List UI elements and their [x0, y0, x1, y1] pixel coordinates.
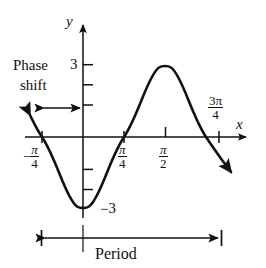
two-denominator-half: 2: [159, 157, 168, 170]
y-tick-label-minus-3: −3: [100, 201, 116, 217]
x-axis-label: x: [236, 117, 243, 132]
graph-canvas: [0, 0, 266, 268]
three-pi-numerator: 3π: [208, 94, 223, 108]
y-min-value: 3: [108, 200, 116, 216]
y-axis-ticks: [83, 65, 93, 190]
four-denominator-quarter: 4: [118, 157, 127, 170]
pi-numerator-quarter: π: [118, 143, 127, 157]
minus-sign-x: −: [23, 150, 30, 163]
x-tick-label-pi-over-4: π 4: [118, 143, 127, 170]
x-axis-ticks: [42, 127, 219, 143]
x-tick-label-3pi-over-4: 3π 4: [208, 94, 223, 121]
trig-graph-figure: y x 3 −3 Phase shift Period − π 4 π 4 π …: [0, 0, 266, 268]
four-denominator-3q: 4: [208, 108, 223, 121]
x-tick-label-neg-pi-over-4: − π 4: [23, 143, 39, 170]
four-denominator-neg: 4: [30, 157, 39, 170]
phase-shift-label-line1: Phase: [13, 58, 48, 73]
phase-shift-label-line2: shift: [20, 78, 47, 93]
pi-numerator-neg: π: [30, 143, 39, 157]
y-tick-label-3: 3: [70, 57, 78, 72]
pi-numerator-half: π: [159, 143, 168, 157]
y-axis-label: y: [66, 14, 73, 29]
period-label: Period: [95, 246, 137, 262]
x-tick-label-pi-over-2: π 2: [159, 143, 168, 170]
